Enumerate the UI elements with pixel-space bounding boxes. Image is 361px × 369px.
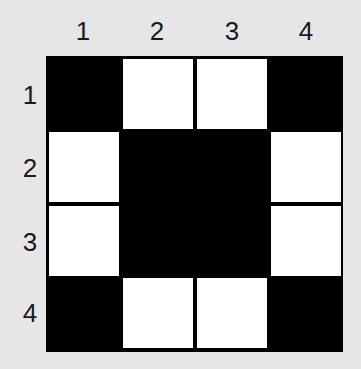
column-label-1: 1 [46,16,120,46]
row-label-3: 3 [18,227,42,257]
row-label-4: 4 [18,298,42,328]
grid-cell-r2-c2 [123,132,193,202]
grid-cell-r2-c1 [49,132,119,202]
grid-cell-r1-c1 [49,59,119,129]
grid-board [46,56,343,352]
grid-cell-r2-c3 [197,132,267,202]
grid-cell-r1-c3 [197,59,267,129]
column-label-2: 2 [120,16,194,46]
row-label-1: 1 [18,80,42,110]
grid-cell-r4-c3 [197,278,267,348]
grid-cell-r4-c2 [123,278,193,348]
grid-cell-r3-c2 [123,206,193,276]
grid-cell-r1-c4 [271,59,341,129]
grid-cell-r2-c4 [271,132,341,202]
grid-cell-r4-c1 [49,278,119,348]
grid-cell-r3-c4 [271,206,341,276]
grid-cell-r3-c3 [197,206,267,276]
column-label-4: 4 [269,16,343,46]
grid-cell-r3-c1 [49,206,119,276]
row-label-2: 2 [18,153,42,183]
grid-cell-r1-c2 [123,59,193,129]
grid-cell-r4-c4 [271,278,341,348]
column-label-3: 3 [195,16,269,46]
